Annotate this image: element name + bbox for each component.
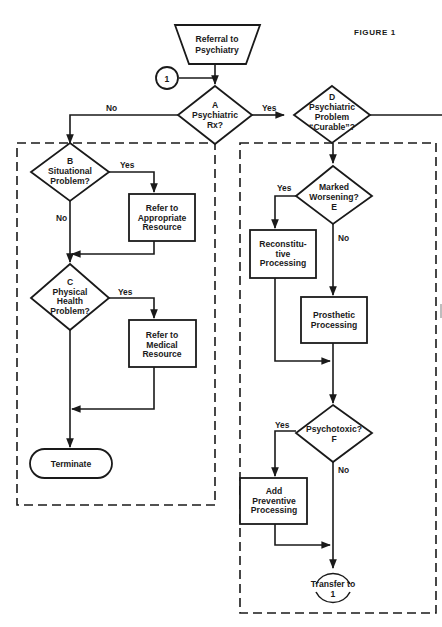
node-B-situational-problem: B Situational Problem? [31,143,109,201]
edge-C-yes [109,298,154,318]
prosthetic-line-1: Prosthetic [313,310,355,320]
node-refer-to-appropriate-resource: Refer to Appropriate Resource [129,194,195,241]
C-line-1: C [67,277,73,287]
reconstitutive-line-1: Reconstitu- [259,239,306,249]
node-transfer-to-1: Transfer to 1 [311,573,355,602]
edge-label-E-no: No [338,233,349,243]
node-terminate: Terminate [30,449,112,478]
figure-label: FIGURE 1 [354,28,396,37]
connector-1-label: 1 [165,74,170,84]
refer-medical-line-1: Refer to [146,330,178,340]
node-refer-to-medical-resource: Refer to Medical Resource [129,320,196,367]
edge-label-E-yes: Yes [277,183,292,193]
edge-label-F-no: No [338,465,349,475]
F-line-1: Psychotoxic? [306,424,362,434]
node-A-psychiatric-rx: A Psychiatric Rx? [178,86,252,144]
edge-label-B-yes: Yes [120,160,135,170]
reconstitutive-line-3: Processing [260,258,306,268]
node-prosthetic-processing: Prosthetic Processing [301,297,367,343]
terminate-label: Terminate [51,459,92,469]
refer-medical-line-3: Resource [142,349,181,359]
refer-appropriate-line-3: Resource [142,222,181,232]
A-line-1: A [212,100,218,110]
D-line-2: Psychiatric [309,102,355,112]
D-line-3: Problem [315,112,350,122]
preventive-line-2: Preventive [252,496,296,506]
node-F-psychotoxic: Psychotoxic? F [296,405,372,462]
node-C-physical-health-problem: C Physical Health Problem? [31,264,109,330]
referral-line-2: Psychiatry [195,45,239,55]
B-line-2: Situational [48,166,92,176]
edge-B-yes [109,172,154,192]
node-referral-to-psychiatry: Referral to Psychiatry [175,25,260,64]
E-line-2: Worsening? [309,192,359,202]
edge-label-B-no: No [56,213,67,223]
B-line-1: B [67,156,73,166]
prosthetic-line-2: Processing [311,320,357,330]
transfer-line-2: 1 [331,589,336,599]
preventive-line-1: Add [266,486,283,496]
edge-label-C-yes: Yes [118,287,133,297]
edge-E-yes [275,196,296,228]
referral-line-1: Referral to [196,34,239,44]
D-line-4: “Curable”? [309,122,355,132]
node-add-preventive-processing: Add Preventive Processing [240,478,307,524]
refer-medical-line-2: Medical [146,340,178,350]
A-line-2: Psychiatric [192,110,238,120]
edge-label-F-yes: Yes [275,420,290,430]
C-line-4: Problem? [50,306,90,316]
edge-A-no [70,115,178,143]
node-E-marked-worsening: Marked Worsening? E [296,166,372,224]
preventive-line-3: Processing [251,505,297,515]
edge-refer-medical-return [72,367,154,409]
edge-F-yes [275,431,296,476]
edge-label-A-yes: Yes [262,103,277,113]
node-reconstitutive-processing: Reconstitu- tive Processing [250,230,316,278]
A-line-3: Rx? [207,120,223,130]
refer-appropriate-line-1: Refer to [146,203,178,213]
transfer-line-1: Transfer to [311,579,355,589]
E-line-1: Marked [319,182,349,192]
flowchart: FIGURE 1 Referral to Psychiatry [0,0,442,627]
C-line-3: Health [57,296,83,306]
B-line-3: Problem? [50,176,90,186]
edge-refer-appropriate-return [72,241,154,254]
node-connector-1: 1 [156,67,178,89]
E-line-3: E [331,202,337,212]
edge-preventive-join [275,524,330,545]
edge-label-A-no: No [106,103,117,113]
reconstitutive-line-2: tive [276,249,291,259]
F-line-2: F [331,434,336,444]
refer-appropriate-line-2: Appropriate [138,213,187,223]
D-line-1: D [329,92,335,102]
node-D-psychiatric-problem-curable: D Psychiatric Problem “Curable”? [294,86,370,143]
